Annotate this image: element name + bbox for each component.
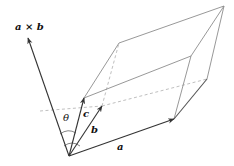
edge-c-to-b-plus-c	[84, 43, 119, 98]
edge-a-plus-b-to-top	[207, 6, 224, 79]
label-a-cross-b: a × b	[15, 21, 44, 32]
vector-a-cross-b	[28, 38, 69, 156]
edge-b-to-b-plus-c	[102, 43, 119, 106]
edge-a-plus-c-to-top	[191, 6, 224, 56]
edge-projection-line	[40, 106, 102, 111]
vectors	[28, 38, 174, 156]
label-c: c	[83, 108, 89, 119]
hidden-edges	[40, 43, 207, 111]
label-b: b	[91, 124, 98, 135]
edge-b-plus-c-to-top	[119, 6, 224, 43]
parallelepiped-diagram: a × b c b a θ	[0, 0, 234, 166]
visible-edges	[84, 6, 224, 119]
label-a: a	[117, 141, 123, 152]
edge-c-to-a-plus-c	[84, 56, 191, 98]
theta-arc	[60, 131, 76, 134]
vector-c	[69, 98, 84, 156]
label-theta: θ	[63, 112, 69, 123]
edge-b-to-a-plus-b	[102, 79, 207, 106]
